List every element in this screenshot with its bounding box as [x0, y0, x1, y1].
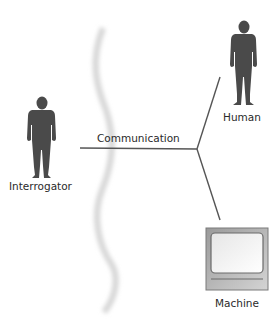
communication-label: Communication: [97, 132, 180, 144]
human-label: Human: [223, 111, 261, 123]
human-person-icon: [230, 21, 257, 106]
interrogator-person-icon: [27, 97, 56, 179]
diagram-canvas: [0, 0, 280, 319]
divider-wave: [96, 28, 116, 312]
interrogator-label: Interrogator: [9, 180, 72, 192]
machine-label: Machine: [215, 297, 259, 309]
machine-computer-monitor-icon: [206, 228, 268, 290]
